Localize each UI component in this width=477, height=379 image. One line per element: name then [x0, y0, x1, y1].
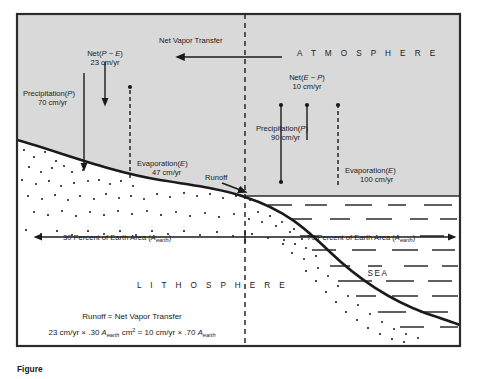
hydrologic-cycle-figure: A T M O S P H E R E Net Vapor Transfer N… — [0, 0, 477, 379]
lithosphere-zone-label: L I T H O S P H E R E — [137, 281, 288, 290]
svg-text:23 cm/yr: 23 cm/yr — [90, 58, 120, 67]
land-net-label: Net(P − E) 23 cm/yr — [87, 49, 123, 67]
svg-text:10 cm/yr: 10 cm/yr — [292, 82, 322, 91]
svg-text:90 cm/yr: 90 cm/yr — [271, 133, 301, 142]
runoff-label: Runoff — [205, 173, 228, 182]
sea-zone-label: SEA — [367, 269, 388, 278]
sea-area-label: 70 Percent of Earth Area (Aearth) — [307, 233, 416, 243]
svg-text:Net(E − P): Net(E − P) — [289, 73, 325, 82]
balance-equation-line-1: Runoff = Net Vapor Transfer — [82, 312, 182, 321]
svg-text:Net(P − E): Net(P − E) — [87, 49, 123, 58]
svg-text:Evaporation(E): Evaporation(E) — [137, 159, 188, 168]
water-balance-diagram: A T M O S P H E R E Net Vapor Transfer N… — [0, 0, 477, 379]
svg-text:100 cm/yr: 100 cm/yr — [360, 175, 394, 184]
svg-text:Precipitation(P): Precipitation(P) — [256, 124, 308, 133]
svg-text:Evaporation(E): Evaporation(E) — [345, 166, 396, 175]
land-area-label: 30 Percent of Earth Area (Aearth) — [63, 233, 172, 243]
atmosphere-zone-label: A T M O S P H E R E — [297, 49, 439, 58]
balance-equation-line-2: 23 cm/yr × .30 Aearth cm2 = 10 cm/yr × .… — [48, 327, 215, 338]
svg-text:Precipitation(P): Precipitation(P) — [23, 89, 75, 98]
net-vapor-transfer-label: Net Vapor Transfer — [159, 36, 223, 45]
panel-content: A T M O S P H E R E Net Vapor Transfer N… — [17, 14, 460, 346]
sea-net-label: Net(E − P) 10 cm/yr — [289, 73, 325, 91]
figure-caption: Figure — [17, 364, 43, 374]
svg-text:47 cm/yr: 47 cm/yr — [152, 168, 182, 177]
svg-text:70 cm/yr: 70 cm/yr — [38, 98, 68, 107]
